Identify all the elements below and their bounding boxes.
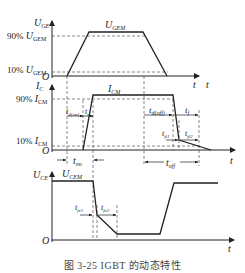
panel-collector-current: IC ICM 90% ICM 10% ICM O t t td(on) tr t…	[16, 79, 235, 169]
ucem-label: UCEM	[62, 168, 83, 180]
tfv1-label: tfv1	[75, 203, 83, 213]
tr-label: tr	[85, 107, 89, 117]
tf-label: tf	[185, 105, 191, 116]
ic-waveform	[83, 95, 211, 150]
origin-label-ic: O	[42, 145, 49, 156]
tfv2-label: tfv2	[101, 203, 110, 213]
td-off-label: td(off)	[149, 105, 165, 117]
level-90-uge-label: 90% UGEM	[7, 30, 47, 42]
td-on-label: td(on)	[66, 107, 79, 117]
uge-axis-label: UGE	[34, 17, 50, 29]
icm-peak-label: ICM	[107, 83, 121, 95]
uge-waveform	[67, 32, 167, 76]
level-90-ic-label: 90% ICM	[16, 93, 48, 105]
time-axis-label-ic: t	[230, 155, 233, 166]
origin-label-uce: O	[42, 235, 49, 246]
igbt-dynamic-characteristics-diagram: UGE UGEM 90% UGEM 10% UGEM O t IC ICM 90…	[0, 0, 245, 273]
ton-label: ton	[73, 155, 82, 167]
level-10-uge-label: 10% UGEM	[7, 64, 47, 76]
time-axis-label-uge-lower: t	[206, 79, 209, 90]
uce-axis-label: UCE	[33, 169, 48, 181]
time-axis-label-uce: t	[228, 243, 231, 254]
panel-collector-emitter-voltage: UCE UCEM O t tfv1 tfv2	[33, 168, 234, 254]
tfi2-label: tfi2	[185, 129, 193, 139]
tfi1-label: tfi1	[162, 129, 170, 139]
figure-caption: 图 3-25 IGBT 的动态特性	[0, 257, 245, 272]
toff-label: toff	[166, 157, 176, 169]
time-axis-label-uge: t	[193, 79, 196, 90]
origin-label-uge: O	[42, 71, 49, 82]
ugem-peak-label: UGEM	[105, 19, 126, 31]
